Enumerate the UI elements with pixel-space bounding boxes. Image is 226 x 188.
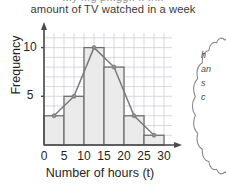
x-tick-label-30: 30 <box>144 149 184 163</box>
y-axis-title: Frequency <box>9 23 23 107</box>
cloud-callout: h an s c <box>188 36 226 176</box>
x-axis-title: Number of hours (t) <box>20 166 180 180</box>
callout-text: h an s c <box>201 48 226 104</box>
callout-line-5: c <box>201 90 226 104</box>
callout-line-1: h <box>201 48 226 62</box>
callout-line-4: s <box>201 76 226 90</box>
callout-line-2: an <box>201 62 226 76</box>
